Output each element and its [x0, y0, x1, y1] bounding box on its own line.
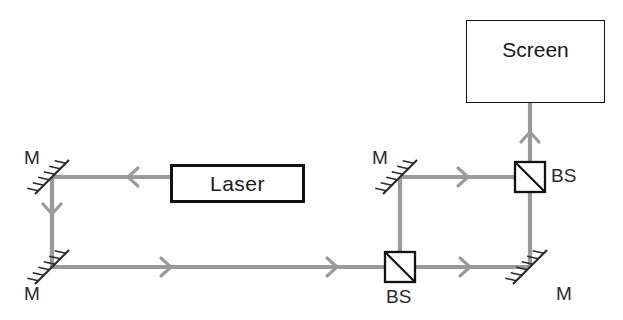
mirror-top-left-hatch: [44, 172, 55, 175]
mirror-top-left-hatch: [49, 166, 60, 169]
mirror-middle-hatch: [381, 183, 392, 186]
mirror-middle-hatch: [375, 188, 386, 191]
mirror-bottom-right-label: M: [556, 283, 572, 305]
beamsplitter-lower-label: BS: [386, 286, 411, 308]
screen-label: Screen: [502, 38, 569, 62]
mirror-top-left-hatch: [33, 183, 44, 186]
mirror-middle-hatch: [392, 172, 403, 175]
mirror-bottom-right-hatch: [533, 251, 544, 254]
screen-box: Screen: [466, 20, 605, 103]
laser-label: Laser: [210, 172, 265, 196]
mirror-bottom-right-hatch: [511, 273, 522, 276]
mirror-bottom-left-label: M: [24, 283, 40, 305]
optical-diagram-canvas: Laser Screen MMMMBSBS: [0, 0, 623, 320]
beam-arrow-group: [43, 132, 539, 276]
mirror-top-left-hatch: [55, 161, 66, 164]
beamsplitter-upper: [515, 162, 545, 192]
mirror-bottom-left-hatch: [38, 267, 49, 270]
laser-box: Laser: [170, 164, 305, 203]
mirror-middle-label: M: [372, 147, 388, 169]
mirror-bottom-left-hatch: [55, 251, 66, 254]
mirror-middle-hatch: [397, 166, 408, 169]
mirror-bottom-left-hatch: [33, 273, 44, 276]
mirror-top-left-hatch: [27, 188, 38, 191]
beamsplitter-lower: [385, 252, 415, 282]
mirror-top-left-label: M: [24, 147, 40, 169]
beamsplitter-upper-label: BS: [551, 165, 576, 187]
mirror-middle-hatch: [403, 161, 414, 164]
mirror-top-left-hatch: [38, 177, 49, 180]
mirror-middle-hatch: [386, 177, 397, 180]
mirror-bottom-right-hatch: [505, 278, 516, 281]
mirror-bottom-left-hatch: [27, 278, 38, 281]
